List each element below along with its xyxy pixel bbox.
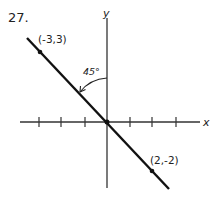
x-axis-label: x (202, 116, 210, 129)
point-label-2-neg2: (2,-2) (150, 154, 179, 166)
origin-point (105, 120, 110, 125)
problem-number: 27. (8, 10, 29, 25)
angle-label: 45° (83, 66, 100, 77)
point-neg3-3 (38, 50, 43, 55)
point-2-neg2 (150, 169, 155, 174)
line-y-equals-neg-x (27, 38, 169, 189)
point-label-neg3-3: (-3,3) (38, 33, 67, 45)
y-axis-label: y (102, 7, 110, 20)
coordinate-diagram: 27. y x (-3,3) (2,-2) 45° (0, 0, 223, 207)
